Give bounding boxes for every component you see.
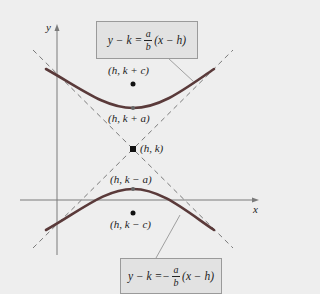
center-label: (h, k) xyxy=(140,142,163,154)
fraction-denominator: b xyxy=(174,278,179,288)
vertex-top-dot xyxy=(131,106,135,110)
vertex-bottom-dot xyxy=(131,187,135,191)
x-axis-arrow-icon xyxy=(252,198,259,203)
fraction-numerator: a xyxy=(174,265,179,275)
asymptote-negative-equation: y − k = − a b (x − h) xyxy=(120,258,222,294)
equation-rhs: (x − h) xyxy=(154,34,186,46)
equation-rhs: (x − h) xyxy=(182,270,214,282)
vertex-top-label: (h, k + a) xyxy=(108,112,150,124)
leader-line-top xyxy=(168,58,194,82)
equation-lhs: y − k = xyxy=(128,270,162,282)
x-axis-label: x xyxy=(253,203,258,215)
y-axis-label: y xyxy=(46,21,51,33)
equation-lhs: y − k = xyxy=(108,34,142,46)
leader-line-bottom xyxy=(156,215,180,258)
fraction-numerator: a xyxy=(146,29,151,39)
fraction-denominator: b xyxy=(146,42,151,52)
asymptote-positive-equation: y − k = a b (x − h) xyxy=(96,21,198,59)
focus-bottom-dot xyxy=(131,211,136,216)
center-dot xyxy=(130,146,136,152)
focus-bottom-label: (h, k − c) xyxy=(110,218,151,230)
y-axis-arrow-icon xyxy=(55,24,60,31)
focus-top-label: (h, k + c) xyxy=(108,64,149,76)
vertex-bottom-label: (h, k − a) xyxy=(110,173,152,185)
equation-sign: − xyxy=(162,270,170,282)
focus-top-dot xyxy=(131,82,136,87)
fraction: a b xyxy=(172,265,180,288)
fraction: a b xyxy=(144,29,152,52)
